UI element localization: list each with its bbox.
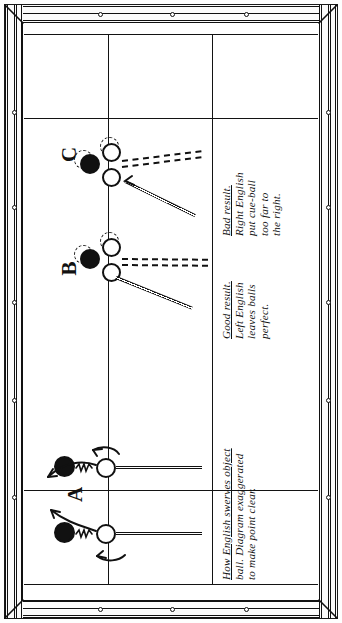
caption-a-line-1: How English swerves object [220, 448, 233, 580]
caption-shot-a: How English swerves object ball. Diagram… [220, 448, 258, 580]
rail-sight-dot [12, 110, 17, 115]
rail-sight-dot [170, 607, 175, 612]
rail-sight-dot [98, 12, 103, 17]
caption-b-line-2: Left English [233, 281, 246, 339]
caption-b-line-3: leaves balls [245, 281, 258, 339]
swerve-and-spin-annotations [24, 24, 318, 599]
rail-sight-dot [326, 110, 331, 115]
rail-sight-dot [12, 205, 17, 210]
caption-a-line-2: ball. Diagram exaggerated [233, 448, 246, 580]
caption-shot-c: Bad result. Right English put cue-ball t… [220, 172, 283, 236]
billiards-english-diagram: C B A Bad result. Right English put cue-… [0, 0, 342, 623]
caption-shot-b: Good result. Left English leaves balls p… [220, 281, 270, 339]
caption-c-line-4: too far to [258, 172, 271, 236]
rail-sight-dot [170, 12, 175, 17]
caption-a-line-3: to make point clear. [245, 448, 258, 580]
shot-label-a: A [63, 487, 88, 502]
rail-sight-dot [12, 300, 17, 305]
rail-sight-dot [326, 300, 331, 305]
caption-c-line-1: Bad result. [220, 172, 233, 236]
rail-sight-dot [326, 205, 331, 210]
rail-sight-dot [326, 495, 331, 500]
shot-label-b: B [57, 261, 82, 275]
rail-sight-dot [98, 607, 103, 612]
caption-c-line-3: put cue-ball [245, 172, 258, 236]
rail-sight-dot [244, 607, 249, 612]
shot-label-c: C [57, 147, 82, 162]
rail-sight-dot [326, 398, 331, 403]
rail-sight-dot [12, 495, 17, 500]
table-cloth: C B A Bad result. Right English put cue-… [24, 24, 318, 599]
caption-c-line-5: the right. [270, 172, 283, 236]
rail-sight-dot [12, 398, 17, 403]
rail-sight-dot [244, 12, 249, 17]
caption-b-line-1: Good result. [220, 281, 233, 339]
caption-c-line-2: Right English [233, 172, 246, 236]
caption-b-line-4: perfect. [258, 281, 271, 339]
